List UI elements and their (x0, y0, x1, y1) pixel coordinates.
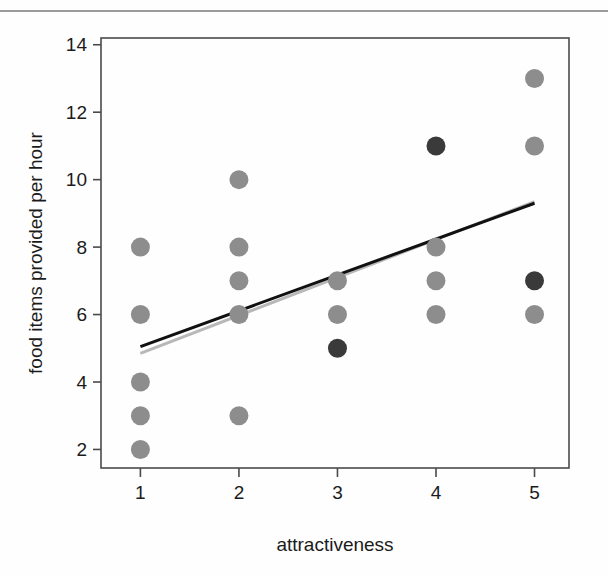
figure-root: 2468101214 12345 attractiveness food ite… (0, 0, 608, 575)
data-point (131, 373, 150, 392)
data-point (131, 406, 150, 425)
data-point (426, 238, 445, 257)
data-point (131, 305, 150, 324)
data-point (229, 406, 248, 425)
plot-frame (101, 38, 569, 468)
y-axis-ticks: 2468101214 (66, 34, 101, 460)
data-point (426, 136, 445, 155)
y-tick-label: 12 (66, 102, 87, 123)
x-tick-label: 5 (529, 482, 540, 503)
data-point (525, 136, 544, 155)
x-tick-label: 3 (332, 482, 343, 503)
y-tick-label: 8 (76, 237, 87, 258)
data-point (328, 305, 347, 324)
data-points-group (131, 69, 544, 459)
data-point (229, 271, 248, 290)
data-point (328, 271, 347, 290)
data-point (328, 339, 347, 358)
data-point (426, 305, 445, 324)
data-point (131, 440, 150, 459)
x-tick-label: 2 (234, 482, 245, 503)
scatter-plot: 2468101214 12345 attractiveness food ite… (0, 0, 608, 575)
y-tick-label: 2 (76, 439, 87, 460)
y-tick-label: 6 (76, 304, 87, 325)
data-point (229, 170, 248, 189)
data-point (426, 271, 445, 290)
data-point (131, 238, 150, 257)
y-tick-label: 10 (66, 169, 87, 190)
x-tick-label: 4 (431, 482, 442, 503)
y-axis-title: food items provided per hour (25, 131, 46, 374)
y-tick-label: 4 (76, 372, 87, 393)
y-tick-label: 14 (66, 34, 88, 55)
x-axis-title: attractiveness (276, 534, 393, 555)
data-point (525, 69, 544, 88)
data-point (229, 238, 248, 257)
x-tick-label: 1 (135, 482, 146, 503)
data-point (525, 305, 544, 324)
x-axis-ticks: 12345 (135, 468, 540, 503)
data-point (525, 271, 544, 290)
data-point (229, 305, 248, 324)
